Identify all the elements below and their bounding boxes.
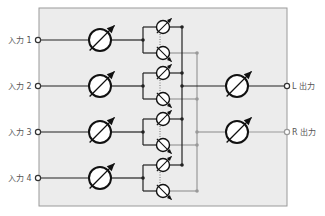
R-bus-dot-1 (195, 51, 199, 55)
L-output-dot (180, 84, 184, 88)
output-label-r: R 出力 (292, 127, 316, 137)
input-jack-1 (35, 37, 40, 42)
L-bus-dot-2 (180, 71, 184, 75)
R-bus-dot-4 (195, 189, 199, 193)
panel (39, 8, 287, 206)
branch-dot-1 (141, 38, 145, 42)
branch-dot-4 (141, 176, 145, 180)
input-label-3: 入力 3 (8, 127, 32, 137)
L-bus-dot-4 (180, 163, 184, 167)
branch-dot-2 (141, 84, 145, 88)
mixer-diagram: 入力 1 入力 2 入力 3 入力 4 L 出力 R 出力 (0, 0, 325, 216)
input-label-2: 入力 2 (8, 81, 32, 91)
input-label-4: 入力 4 (8, 173, 32, 183)
L-bus-dot-3 (180, 117, 184, 121)
R-output-jack (284, 129, 289, 134)
R-output-dot (195, 130, 199, 134)
input-jack-2 (35, 83, 40, 88)
input-jack-4 (35, 175, 40, 180)
R-bus-dot-3 (195, 143, 199, 147)
branch-dot-3 (141, 130, 145, 134)
input-jack-3 (35, 129, 40, 134)
L-bus-dot-1 (180, 25, 184, 29)
input-label-1: 入力 1 (8, 35, 32, 45)
L-output-jack (284, 83, 289, 88)
output-label-l: L 出力 (292, 81, 315, 91)
R-bus-dot-2 (195, 97, 199, 101)
